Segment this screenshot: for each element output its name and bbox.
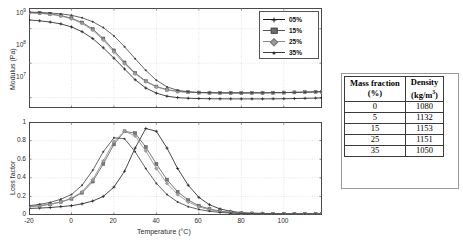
- diamond-marker-icon: [270, 38, 278, 46]
- cell-mass-fraction: 0: [345, 101, 406, 112]
- legend-label-2: 25%: [285, 38, 302, 45]
- square-marker-icon: [271, 27, 278, 34]
- loss-xtick-0: 0: [61, 217, 81, 224]
- loss-ytick-0: 0: [0, 210, 26, 217]
- table-header-density: Density (kg/m3): [405, 77, 443, 102]
- table-header-density-line2-end: ): [435, 89, 438, 99]
- table-row: 5 1132: [345, 112, 444, 123]
- density-table: Mass fraction (%) Density (kg/m3) 0 1080…: [344, 76, 444, 157]
- cell-mass-fraction: 15: [345, 123, 406, 134]
- legend-label-3: 35%: [285, 49, 302, 56]
- table-row: 25 1151: [345, 134, 444, 145]
- table-header-mass-fraction-line2: (%): [368, 88, 382, 98]
- plus-marker-icon: [272, 17, 277, 22]
- cell-mass-fraction: 5: [345, 112, 406, 123]
- loss-ytick-1: 1: [0, 118, 26, 125]
- legend-item-2: 25%: [263, 36, 315, 47]
- cell-density: 1080: [405, 101, 443, 112]
- table-body: 0 1080 5 1132 15 1153 25 1151 35 1050: [345, 101, 444, 156]
- loss-xtick-60: 60: [188, 217, 208, 224]
- loss-yaxis-title: Loss factor: [9, 161, 16, 195]
- dot-marker-icon: [273, 51, 276, 54]
- loss-xtick-100: 100: [273, 217, 293, 224]
- modulus-ytick-1e8: 108: [0, 40, 26, 48]
- legend-swatch-3: [263, 47, 285, 58]
- legend-item-0: 05%: [263, 14, 315, 25]
- modulus-yaxis-title: Modulus (Pa): [9, 48, 16, 90]
- table-row: 35 1050: [345, 145, 444, 156]
- table-header-row: Mass fraction (%) Density (kg/m3): [345, 77, 444, 102]
- table-row: 15 1153: [345, 123, 444, 134]
- cell-mass-fraction: 35: [345, 145, 406, 156]
- legend: 05% 15% 25% 35%: [259, 11, 319, 59]
- legend-swatch-1: [263, 25, 285, 36]
- loss-xaxis-title: Temperature (°C): [137, 228, 191, 235]
- legend-item-3: 35%: [263, 47, 315, 58]
- loss-xtick-20: 20: [103, 217, 123, 224]
- modulus-ytick-1e9: 109: [0, 8, 26, 16]
- figure-container: 109 108 107 Modulus (Pa) 05% 15% 25%: [0, 0, 463, 245]
- cell-density: 1050: [405, 145, 443, 156]
- loss-xtick--20: -20: [19, 217, 39, 224]
- table-header-density-line1: Density: [411, 77, 438, 87]
- table-header-density-line2: (kg/m: [411, 89, 432, 99]
- legend-label-1: 15%: [285, 27, 302, 34]
- legend-swatch-2: [263, 36, 285, 47]
- loss-xtick-40: 40: [146, 217, 166, 224]
- loss-factor-plot: [29, 122, 322, 215]
- cell-density: 1132: [405, 112, 443, 123]
- legend-label-0: 05%: [285, 16, 302, 23]
- cell-density: 1151: [405, 134, 443, 145]
- loss-factor-plot-canvas: [29, 122, 322, 215]
- legend-swatch-0: [263, 14, 285, 25]
- loss-ytick-0.8: 0.8: [0, 136, 26, 143]
- table-header-mass-fraction: Mass fraction (%): [345, 77, 406, 102]
- cell-mass-fraction: 25: [345, 134, 406, 145]
- loss-xtick-80: 80: [231, 217, 251, 224]
- legend-item-1: 15%: [263, 25, 315, 36]
- cell-density: 1153: [405, 123, 443, 134]
- table-header-mass-fraction-line1: Mass fraction: [350, 78, 400, 88]
- table-row: 0 1080: [345, 101, 444, 112]
